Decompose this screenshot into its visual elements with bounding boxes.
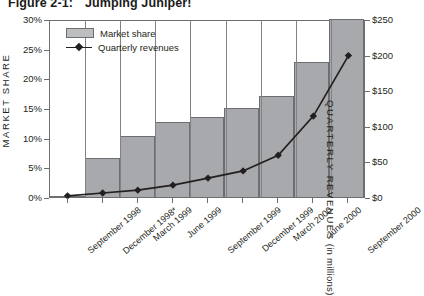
left-axis-tick bbox=[44, 109, 49, 110]
figure-number: Figure 2-1: bbox=[8, 0, 73, 10]
right-axis-title: QUARTERLY REVENUES (in millions) bbox=[325, 100, 336, 296]
right-axis-tick bbox=[365, 56, 370, 57]
right-axis-tick-label: $0 bbox=[372, 192, 383, 203]
x-axis-label: September 1999 bbox=[226, 205, 283, 255]
x-axis-tick bbox=[102, 198, 103, 203]
bar-swatch-icon bbox=[66, 28, 94, 38]
data-point-marker bbox=[134, 186, 141, 193]
data-point-marker bbox=[239, 167, 246, 174]
right-axis-tick-label: $150 bbox=[372, 85, 393, 96]
left-axis-tick-label: 30% bbox=[23, 14, 42, 25]
x-axis-tick bbox=[347, 198, 348, 203]
right-axis-tick bbox=[365, 127, 370, 128]
right-axis-tick bbox=[365, 91, 370, 92]
right-axis-tick-label: $50 bbox=[372, 156, 388, 167]
left-axis-tick-label: 0% bbox=[28, 192, 42, 203]
left-axis-tick-label: 20% bbox=[23, 73, 42, 84]
data-point-marker bbox=[345, 52, 352, 59]
left-axis-tick-label: 25% bbox=[23, 44, 42, 55]
right-axis-tick-label: $200 bbox=[372, 50, 393, 61]
data-point-marker bbox=[204, 174, 211, 181]
left-axis-tick-label: 10% bbox=[23, 133, 42, 144]
x-axis-tick bbox=[312, 198, 313, 203]
right-axis-tick bbox=[365, 162, 370, 163]
left-axis-tick bbox=[44, 168, 49, 169]
left-axis-tick bbox=[44, 139, 49, 140]
figure-title-text: Jumping Juniper! bbox=[85, 0, 191, 10]
legend: Market share Quarterly revenues bbox=[66, 26, 179, 54]
legend-label-market-share: Market share bbox=[100, 28, 155, 39]
x-axis-tick bbox=[277, 198, 278, 203]
legend-item-market-share: Market share bbox=[66, 26, 179, 40]
x-axis-tick bbox=[67, 198, 68, 203]
legend-item-quarterly-revenues: Quarterly revenues bbox=[66, 40, 179, 54]
right-axis-title-text: QUARTERLY REVENUES bbox=[325, 100, 336, 241]
left-axis-tick-label: 15% bbox=[23, 103, 42, 114]
legend-label-quarterly-revenues: Quarterly revenues bbox=[98, 42, 179, 53]
left-axis-tick bbox=[44, 50, 49, 51]
right-axis-tick bbox=[365, 20, 370, 21]
data-point-marker bbox=[99, 189, 106, 196]
right-axis-tick bbox=[365, 198, 370, 199]
line-diamond-icon bbox=[66, 43, 92, 51]
left-axis-tick bbox=[44, 20, 49, 21]
left-axis-tick-label: 5% bbox=[28, 162, 42, 173]
data-point-marker bbox=[64, 192, 71, 199]
right-axis-title-unit: (in millions) bbox=[325, 244, 336, 296]
x-axis-tick bbox=[207, 198, 208, 203]
left-axis-title: MARKET SHARE bbox=[0, 54, 11, 148]
right-axis-tick-label: $100 bbox=[372, 121, 393, 132]
x-axis-tick bbox=[242, 198, 243, 203]
left-axis-tick bbox=[44, 198, 49, 199]
x-axis-tick bbox=[172, 198, 173, 203]
x-axis-tick bbox=[137, 198, 138, 203]
figure-title: Figure 2-1:Jumping Juniper! bbox=[8, 0, 191, 10]
x-axis-label: September 2000 bbox=[366, 205, 423, 255]
data-point-marker bbox=[169, 182, 176, 189]
left-axis-tick bbox=[44, 79, 49, 80]
right-axis-tick-label: $250 bbox=[372, 14, 393, 25]
